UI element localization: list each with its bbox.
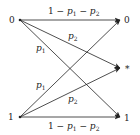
edge-label-0-to-erasure: p2 [68,31,78,42]
edge-label-0-to-0: 1 − p1 − p2 [48,6,100,17]
channel-diagram: 0 1 0 * 1 1 − p1 − p2 p2 p1 p1 p2 1 − p1… [0,0,140,135]
input-label-1: 1 [8,112,14,122]
input-label-0: 0 [9,15,15,25]
input-node-0-dot [19,19,22,22]
edge-label-1-to-1: 1 − p1 − p2 [48,121,100,132]
output-label-1: 1 [124,113,130,123]
edge-1-to-erasure [20,68,120,117]
edge-0-to-erasure [20,20,120,68]
edge-label-0-to-1: p1 [36,43,46,54]
output-label-erasure: * [125,64,130,74]
output-label-0: 0 [124,15,130,25]
input-node-1-dot [19,116,22,119]
edge-label-1-to-0: p1 [36,80,46,91]
edge-label-1-to-erasure: p2 [68,94,78,105]
